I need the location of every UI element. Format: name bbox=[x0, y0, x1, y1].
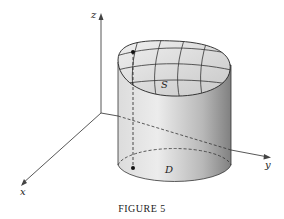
surface-point bbox=[131, 50, 135, 54]
z-axis bbox=[99, 13, 104, 113]
surface-integral-diagram: z x y S D bbox=[0, 0, 284, 219]
surface-label: S bbox=[161, 79, 168, 90]
y-axis-label: y bbox=[264, 159, 271, 170]
region-point bbox=[131, 166, 135, 170]
figure-caption: FIGURE 5 bbox=[0, 203, 284, 214]
z-axis-label: z bbox=[90, 9, 97, 20]
region-label: D bbox=[164, 164, 173, 175]
x-axis-label: x bbox=[20, 186, 26, 197]
x-axis bbox=[21, 113, 101, 186]
